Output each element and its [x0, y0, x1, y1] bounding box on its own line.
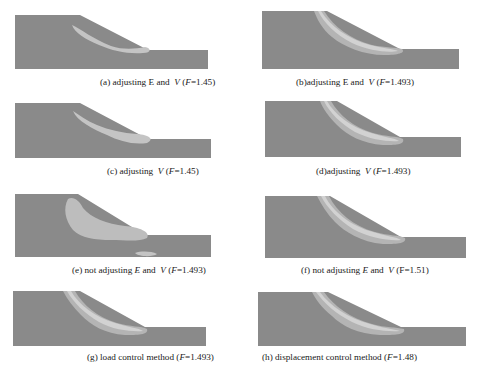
panel-g [13, 291, 206, 347]
slope-body [265, 101, 461, 157]
panel-e [15, 194, 211, 258]
panel-f [265, 196, 466, 259]
slope-plot-c [15, 103, 211, 159]
slope-plot-a [15, 15, 208, 70]
slope-body [258, 292, 466, 346]
slope-plot-b [262, 11, 459, 70]
slope-plot-e [15, 194, 211, 258]
panel-c [15, 103, 211, 159]
caption-h: (h) displacement control method (F=1.48) [262, 352, 417, 362]
caption-b: (b)adjusting E and V (F=1.493) [296, 77, 414, 87]
panel-b [262, 11, 459, 70]
slope-body [13, 291, 206, 346]
slope-body [265, 196, 466, 258]
caption-d: (d)adjusting V (F=1.493) [316, 166, 411, 176]
caption-a: (a) adjusting E and V (F=1.45) [100, 77, 215, 87]
caption-f: (f) not adjusting E and V (F=1.51) [301, 265, 429, 275]
caption-c: (c) adjusting V (F=1.45) [107, 166, 199, 176]
slope-body [15, 15, 208, 69]
slope-plot-g [13, 291, 206, 347]
caption-e: (e) not adjusting E and V (F=1.493) [72, 265, 206, 275]
slope-plot-d [265, 101, 461, 158]
slope-plot-h [258, 292, 466, 347]
slope-plot-f [265, 196, 466, 259]
panel-h [258, 292, 466, 347]
panel-d [265, 101, 461, 158]
panel-a [15, 15, 208, 70]
slope-body [262, 11, 459, 69]
caption-g: (g) load control method (F=1.493) [87, 352, 214, 362]
